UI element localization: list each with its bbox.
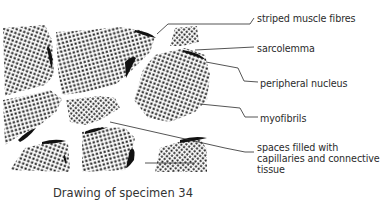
muscle-fibre — [170, 26, 199, 46]
muscle-fibre — [66, 96, 120, 125]
muscle-fibre — [3, 90, 62, 145]
label-spaces-line1: spaces filled with — [257, 142, 338, 153]
label-peripheral-nucleus: peripheral nucleus — [260, 78, 348, 89]
muscle-fibre — [3, 25, 54, 96]
label-spaces-line3: tissue — [257, 164, 285, 175]
label-striped-muscle-fibres: striped muscle fibres — [257, 13, 356, 24]
label-sarcolemma: sarcolemma — [257, 43, 315, 54]
muscle-fibre — [134, 48, 210, 122]
muscle-fibre — [10, 142, 70, 172]
figure-caption: Drawing of specimen 34 — [53, 186, 193, 200]
label-spaces-line2: capillaries and connective — [257, 153, 380, 164]
muscle-fibre — [155, 138, 207, 172]
label-myofibrils: myofibrils — [260, 113, 306, 124]
